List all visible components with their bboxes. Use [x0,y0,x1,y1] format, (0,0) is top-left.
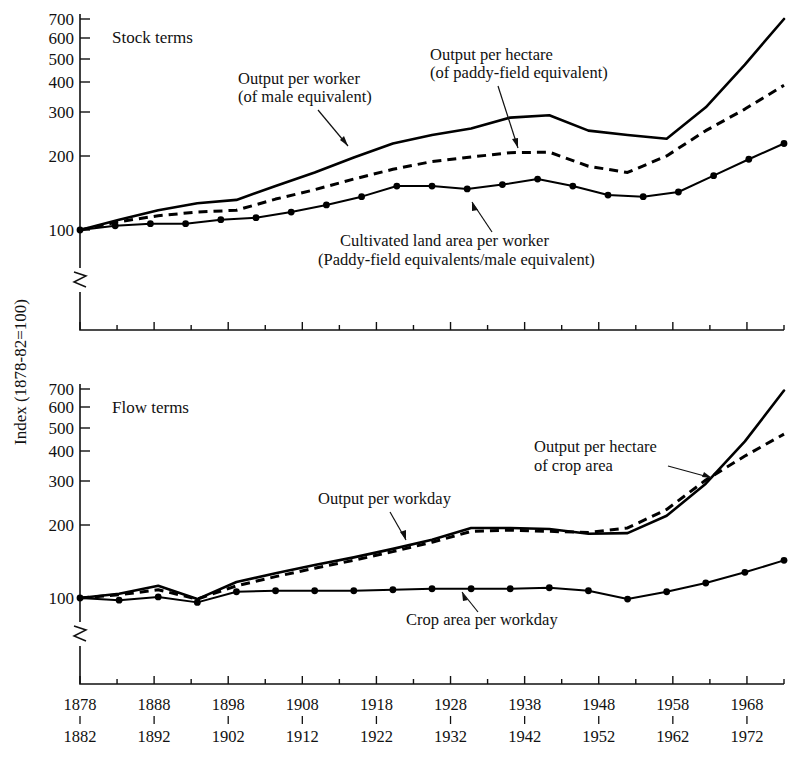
annotation-output-per-hectare: Output per hectare (of paddy-field equiv… [430,45,608,148]
series-marker [116,597,123,604]
panel-title-stock-terms: Stock terms [112,28,193,47]
annotation-cultivated-land-line1: Cultivated land area per worker [340,231,549,250]
series-marker [741,569,748,576]
upper-ytick-200: 200 [49,147,75,166]
panel-title-flow-terms: Flow terms [112,398,189,417]
x-tick-label-end: 1902 [212,727,245,746]
series-marker [429,183,436,190]
series-marker [675,189,682,196]
series-marker [358,193,365,200]
x-tick-label-start: 1898 [212,695,245,714]
series-marker [464,186,471,193]
series-marker [350,587,357,594]
annotation-output-per-hectare-line1: Output per hectare [430,45,553,64]
lower-x-ticks [80,676,784,684]
annotation-output-per-workday: Output per workday [318,489,452,540]
axis-break-icon-lower [74,626,86,641]
series-marker [640,193,647,200]
lower-y-ticks: 700 600 500 400 300 200 100 [49,380,91,608]
series-marker [311,587,318,594]
series-marker [468,585,475,592]
panel-stock-terms: 700 600 500 400 300 200 100 Stock terms [49,10,788,330]
annotation-output-per-hectare-crop: Output per hectare of crop area [534,437,712,478]
x-tick-label-start: 1948 [582,695,615,714]
series-marker [546,584,553,591]
series-marker [77,227,84,234]
upper-y-ticks: 700 600 500 400 300 200 100 [49,10,91,240]
series-marker [781,140,788,147]
series-marker [323,202,330,209]
x-tick-label-end: 1912 [286,727,319,746]
x-tick-label-end: 1922 [360,727,393,746]
upper-ytick-100: 100 [49,221,75,240]
annotation-output-per-worker-line2: (of male equivalent) [238,87,372,106]
x-tick-label-end: 1942 [508,727,541,746]
series-line-1 [80,434,784,599]
economic-index-line-chart: Index (1878-82=100) 700 600 500 400 [0,0,796,761]
annotation-output-per-hectare-line2: (of paddy-field equivalent) [430,63,608,82]
upper-ytick-300: 300 [49,103,75,122]
x-tick-label-start: 1878 [64,695,97,714]
annotation-crop-area-per-workday-line1: Crop area per workday [406,610,558,629]
series-marker [389,586,396,593]
x-tick-label-end: 1932 [434,727,467,746]
x-tick-label-end: 1972 [730,727,763,746]
series-marker [507,585,514,592]
x-tick-label-start: 1928 [434,695,467,714]
x-tick-label-start: 1888 [138,695,171,714]
x-tick-label-start: 1918 [360,695,393,714]
series-marker [585,587,592,594]
x-tick-label-start: 1958 [656,695,689,714]
series-marker [499,181,506,188]
series-marker [710,172,717,179]
lower-ytick-500: 500 [49,419,75,438]
series-marker [288,209,295,216]
series-marker [147,220,154,227]
lower-axis-lower-and-x [80,646,784,684]
lower-ytick-300: 300 [49,472,75,491]
annotation-cultivated-land-area: Cultivated land area per worker (Paddy-f… [318,202,595,269]
upper-axis-lower-and-x [80,292,784,330]
x-tick-label-start: 1908 [286,695,319,714]
y-axis-title: Index (1878-82=100) [11,299,30,445]
lower-ytick-700: 700 [49,380,75,399]
series-marker [182,220,189,227]
lower-ytick-600: 600 [49,398,75,417]
series-marker [393,183,400,190]
x-tick-label-end: 1952 [582,727,615,746]
upper-ytick-500: 500 [49,50,75,69]
annotation-cultivated-land-line2: (Paddy-field equivalents/male equivalent… [318,250,595,269]
lower-ytick-200: 200 [49,516,75,535]
series-marker [272,587,279,594]
series-marker [534,176,541,183]
series-marker [194,599,201,606]
series-marker [663,588,670,595]
annotation-output-per-worker: Output per worker (of male equivalent) [238,69,372,146]
x-axis-labels: 1878188218881892189819021908191219181922… [64,695,764,746]
annotation-output-per-workday-line1: Output per workday [318,489,452,508]
series-marker [624,596,631,603]
annotation-output-per-hectare-crop-line2: of crop area [534,456,613,475]
x-tick-label-start: 1938 [508,695,541,714]
series-marker [217,216,224,223]
series-marker [77,595,84,602]
axis-break-icon [74,272,86,287]
panel-flow-terms: 700 600 500 400 300 200 100 Flow terms O… [49,380,788,684]
lower-ytick-100: 100 [49,589,75,608]
y-axis-title-text: Index (1878-82=100) [11,299,30,445]
series-marker [155,594,162,601]
series-marker [745,156,752,163]
lower-ytick-400: 400 [49,442,75,461]
x-tick-label-end: 1882 [64,727,97,746]
series-marker [702,580,709,587]
annotation-output-per-hectare-crop-line1: Output per hectare [534,437,657,456]
series-marker [253,214,260,221]
annotation-output-per-worker-line1: Output per worker [238,69,360,88]
series-marker [429,585,436,592]
x-tick-label-start: 1968 [730,695,763,714]
annotation-crop-area-per-workday: Crop area per workday [406,592,558,629]
series-marker [569,183,576,190]
figure-root: Index (1878-82=100) 700 600 500 400 [0,0,796,761]
series-marker [781,557,788,564]
upper-ytick-700: 700 [49,10,75,29]
